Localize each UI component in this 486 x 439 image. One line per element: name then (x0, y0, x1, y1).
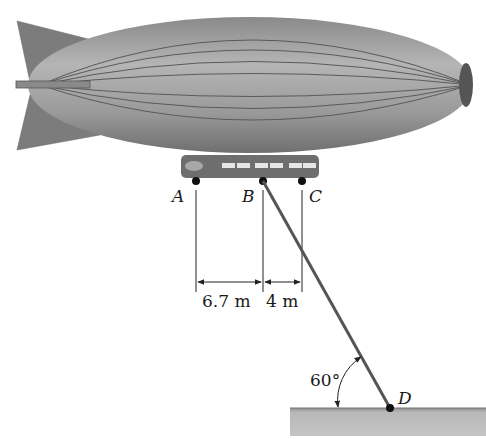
blimp-diagram (0, 0, 486, 439)
blimp-envelope (28, 17, 473, 153)
label-point-b: B (242, 186, 255, 206)
angle-label: 60° (310, 370, 340, 390)
point-a-marker (192, 177, 200, 185)
label-point-c: C (309, 186, 322, 206)
gondola (181, 155, 319, 178)
ground (290, 408, 486, 436)
point-c-marker (298, 177, 306, 185)
dimension-ab-label: 6.7 m (202, 291, 251, 311)
point-d-marker (386, 404, 394, 412)
tail-boom (16, 81, 90, 88)
dimension-bc-label: 4 m (266, 291, 298, 311)
angle-arc (338, 357, 361, 407)
label-point-d: D (398, 388, 412, 408)
label-point-a: A (172, 186, 184, 206)
